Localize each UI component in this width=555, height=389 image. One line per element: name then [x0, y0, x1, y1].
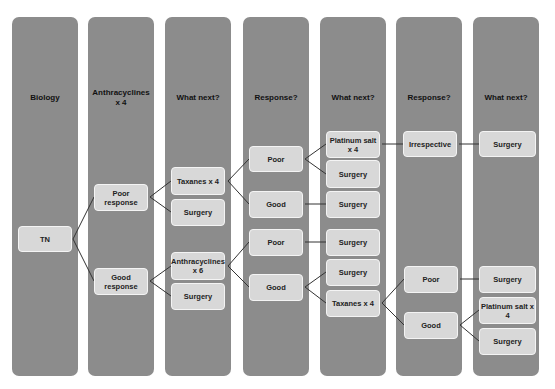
node-surgery: Surgery: [479, 266, 536, 293]
node-poor-response: Poor response: [94, 184, 148, 211]
node-surgery: Surgery: [326, 259, 380, 286]
node-surgery: Surgery: [479, 328, 536, 355]
node-poor: Poor: [404, 266, 458, 293]
node-irrespective: Irrespective: [403, 131, 457, 157]
node-surgery: Surgery: [326, 160, 380, 188]
node-surgery: Surgery: [171, 199, 225, 226]
node-platinum-salt-x4: Platinum salt x 4: [479, 297, 536, 324]
node-taxanes-x4: Taxanes x 4: [171, 167, 225, 195]
node-good-response: Good response: [94, 268, 148, 295]
node-good: Good: [249, 274, 303, 301]
node-anthracyclines-x6: Anthracyclines x 6: [171, 252, 225, 280]
node-poor: Poor: [249, 146, 303, 172]
node-good: Good: [404, 312, 458, 339]
node-tn: TN: [18, 226, 72, 252]
node-surgery: Surgery: [326, 229, 380, 256]
node-surgery: Surgery: [479, 131, 536, 157]
node-platinum-salt-x4: Platinum salt x 4: [326, 131, 380, 158]
node-surgery: Surgery: [171, 283, 225, 310]
node-poor: Poor: [249, 229, 303, 256]
node-surgery: Surgery: [326, 191, 380, 218]
node-good: Good: [249, 191, 303, 218]
node-taxanes-x4: Taxanes x 4: [326, 290, 380, 317]
